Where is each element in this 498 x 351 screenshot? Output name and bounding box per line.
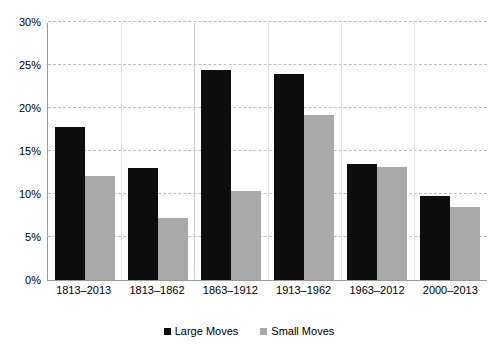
x-axis-tick-label: 1913–1962: [267, 284, 340, 297]
x-axis-labels: 1813–20131813–18621863–19121913–19621963…: [47, 284, 487, 297]
bar-group: [414, 23, 487, 280]
chart-legend: Large MovesSmall Moves: [0, 326, 498, 337]
bar-group: [121, 23, 194, 280]
x-axis-tick-label: 1813–1862: [120, 284, 193, 297]
bar-large-moves[interactable]: [420, 196, 450, 280]
y-axis-tick-label: 30%: [19, 17, 48, 28]
bar-small-moves[interactable]: [450, 207, 480, 280]
legend-label: Small Moves: [271, 326, 334, 337]
bar-small-moves[interactable]: [304, 115, 334, 280]
x-axis-tick-label: 2000–2013: [414, 284, 487, 297]
bar-small-moves[interactable]: [158, 218, 188, 280]
bar-group: [48, 23, 121, 280]
bar-large-moves[interactable]: [201, 70, 231, 280]
plot-area: 0%5%10%15%20%25%30%: [47, 23, 487, 281]
y-axis-tick-label: 5%: [25, 232, 48, 243]
bar-small-moves[interactable]: [85, 176, 115, 280]
legend-item-large-moves[interactable]: Large Moves: [164, 326, 239, 337]
legend-item-small-moves[interactable]: Small Moves: [260, 326, 334, 337]
gridline-30%: 30%: [48, 21, 487, 22]
bar-group: [341, 23, 414, 280]
x-axis-tick-label: 1863–1912: [194, 284, 267, 297]
bar-large-moves[interactable]: [274, 74, 304, 280]
bar-small-moves[interactable]: [231, 191, 261, 280]
bar-chart: 0%5%10%15%20%25%30% 1813–20131813–186218…: [0, 0, 498, 351]
bar-group: [268, 23, 341, 280]
y-axis-tick-label: 25%: [19, 60, 48, 71]
bar-group: [194, 23, 267, 280]
y-axis-tick-label: 10%: [19, 189, 48, 200]
y-axis-tick-label: 15%: [19, 146, 48, 157]
x-axis-tick-label: 1813–2013: [47, 284, 120, 297]
bar-large-moves[interactable]: [347, 164, 377, 280]
x-axis-tick-label: 1963–2012: [340, 284, 413, 297]
legend-swatch-icon: [260, 328, 267, 335]
legend-label: Large Moves: [175, 326, 239, 337]
bar-small-moves[interactable]: [377, 167, 407, 280]
y-axis-tick-label: 0%: [25, 275, 48, 286]
bar-groups: [48, 23, 487, 280]
bar-large-moves[interactable]: [128, 168, 158, 280]
legend-swatch-icon: [164, 328, 171, 335]
y-axis-tick-label: 20%: [19, 103, 48, 114]
bar-large-moves[interactable]: [55, 127, 85, 280]
